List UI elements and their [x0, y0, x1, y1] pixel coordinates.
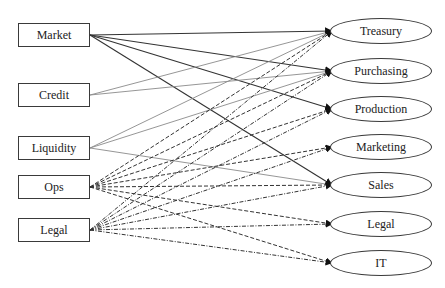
source-node-credit: Credit: [18, 83, 90, 107]
target-label: Marketing: [356, 140, 406, 155]
target-node-sales: Sales: [330, 172, 432, 198]
edge-legal_src-to-sales: [90, 185, 332, 230]
source-label: Market: [37, 28, 72, 43]
edge-ops-to-marketing: [90, 147, 332, 187]
source-label: Credit: [39, 88, 69, 103]
edge-market-to-sales: [90, 35, 332, 185]
edge-market-to-production: [90, 35, 332, 109]
target-node-production: Production: [330, 96, 432, 122]
target-node-legal: Legal: [330, 211, 432, 237]
edge-ops-to-production: [90, 109, 332, 187]
source-label: Liquidity: [32, 141, 77, 156]
target-label: Sales: [368, 178, 393, 193]
source-label: Ops: [44, 180, 63, 195]
edge-ops-to-purchasing: [90, 71, 332, 187]
target-node-marketing: Marketing: [330, 134, 432, 160]
diagram-canvas: Market Credit Liquidity Ops Legal Treasu…: [0, 0, 445, 288]
target-label: Purchasing: [354, 64, 407, 79]
edge-ops-to-legal_tgt: [90, 187, 332, 224]
edge-legal_src-to-production: [90, 109, 332, 230]
edge-legal_src-to-purchasing: [90, 71, 332, 230]
source-node-market: Market: [18, 23, 90, 47]
edge-legal_src-to-it: [90, 230, 332, 263]
edge-market-to-treasury: [90, 31, 332, 35]
source-label: Legal: [40, 223, 67, 238]
target-label: Treasury: [360, 24, 402, 39]
source-node-liquidity: Liquidity: [18, 136, 90, 160]
target-node-it: IT: [330, 250, 432, 276]
source-node-ops: Ops: [18, 175, 90, 199]
target-label: IT: [375, 256, 386, 271]
target-label: Legal: [367, 217, 394, 232]
source-node-legal: Legal: [18, 218, 90, 242]
edge-legal_src-to-marketing: [90, 147, 332, 230]
edge-ops-to-treasury: [90, 31, 332, 187]
edge-ops-to-sales: [90, 185, 332, 187]
target-node-purchasing: Purchasing: [330, 58, 432, 84]
edge-liquidity-to-treasury: [90, 31, 332, 148]
target-label: Production: [355, 102, 408, 117]
target-node-treasury: Treasury: [330, 18, 432, 44]
